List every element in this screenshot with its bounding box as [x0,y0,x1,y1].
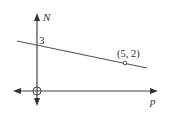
x-axis [13,88,158,94]
y-axis-down-arrow-icon [34,98,40,106]
x-axis-label: p [149,95,156,107]
data-point-5-2 [123,61,127,65]
line-chart: N 3 (5, 2) p [0,0,170,123]
x-axis-left-arrow-icon [13,88,21,94]
y-intercept-label: 3 [39,34,45,46]
x-axis-right-arrow-icon [150,88,158,94]
y-axis [34,13,40,106]
y-axis-label: N [42,11,51,23]
point-label: (5, 2) [117,48,140,60]
y-axis-up-arrow-icon [34,13,40,21]
